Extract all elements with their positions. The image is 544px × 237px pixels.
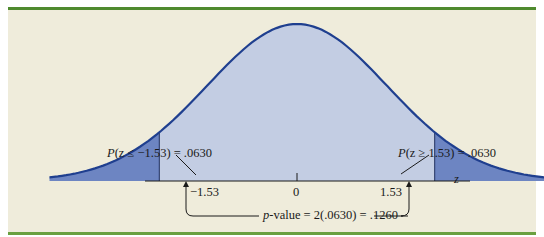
normal-curve-plot [0, 0, 544, 237]
p-value-annotation: p-value = 2(.0630) = .1260 [263, 209, 398, 222]
tick-label-left: −1.53 [190, 186, 219, 199]
tick-label-right: 1.53 [380, 186, 402, 199]
tick-label-center: 0 [293, 186, 299, 199]
right-bracket-arrow [401, 184, 409, 216]
left-tail-annotation: P(z ≤ −1.53) = .0630 [107, 147, 212, 160]
axis-label-z: z [454, 173, 459, 186]
right-tail-annotation: P(z ≥ 1.53) = .0630 [398, 147, 496, 160]
